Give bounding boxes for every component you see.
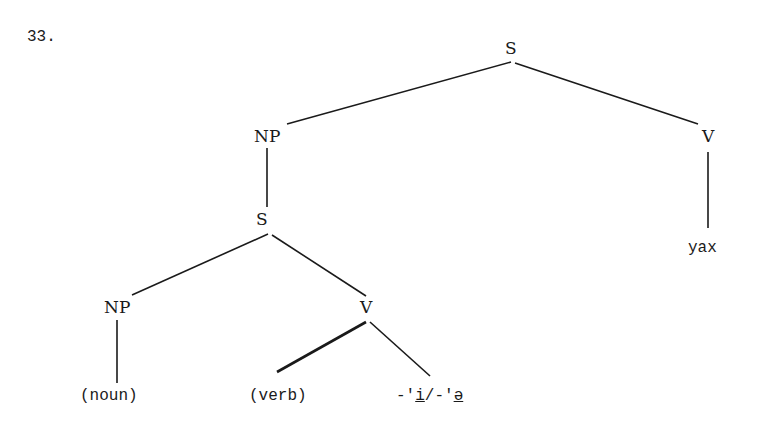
suffix-vowel-schwa: ə <box>454 387 464 405</box>
leaf-suffix: -'i/-'ə <box>396 388 463 404</box>
tree-edges <box>0 0 767 431</box>
suffix-separator: /-' <box>425 387 454 405</box>
node-s-embedded: S <box>256 211 268 228</box>
node-v-top: V <box>702 128 714 145</box>
suffix-vowel-i: i <box>415 387 425 405</box>
edge-v-suffix <box>370 322 430 376</box>
edge-s-np-low <box>132 234 268 295</box>
suffix-prefix: -' <box>396 387 415 405</box>
edge-s-v <box>515 63 698 124</box>
edge-s-v-low <box>272 235 366 296</box>
node-np-low: NP <box>104 299 130 316</box>
edge-v-verb <box>277 322 366 372</box>
node-v-low: V <box>360 299 372 316</box>
node-np-top: NP <box>254 128 280 145</box>
example-number: 33. <box>27 29 56 45</box>
leaf-noun: (noun) <box>80 388 138 404</box>
leaf-verb: (verb) <box>249 388 307 404</box>
node-s-root: S <box>505 40 517 57</box>
edge-s-np <box>287 62 511 124</box>
leaf-yax: yax <box>688 240 717 256</box>
